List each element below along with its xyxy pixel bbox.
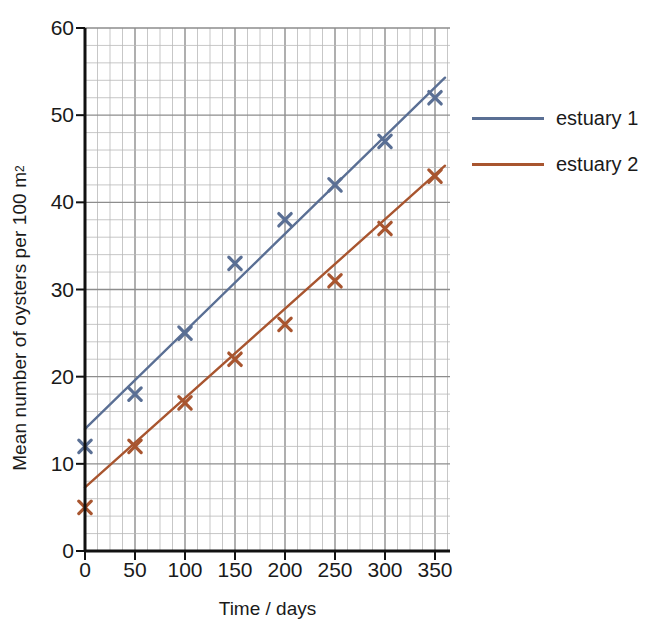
x-axis-tick-label: 200 (267, 558, 302, 582)
x-axis-tick-label: 150 (217, 558, 252, 582)
legend-label: estuary 2 (556, 153, 638, 176)
trendline-series-2 (85, 166, 445, 488)
x-axis-tick-label: 300 (367, 558, 402, 582)
legend-line-swatch (472, 117, 544, 120)
chart-legend: estuary 1estuary 2 (472, 95, 638, 187)
x-axis-tick-label: 350 (417, 558, 452, 582)
x-axis-tick-label: 50 (123, 558, 146, 582)
legend-line-swatch (472, 163, 544, 166)
legend-item-2: estuary 2 (472, 141, 638, 187)
chart-figure: 0102030405060 Mean number of oysters per… (0, 0, 655, 636)
legend-label: estuary 1 (556, 107, 638, 130)
x-axis-tick-label: 250 (317, 558, 352, 582)
legend-item-1: estuary 1 (472, 95, 638, 141)
x-axis-tick-label: 100 (167, 558, 202, 582)
x-axis-tick-label: 0 (79, 558, 91, 582)
